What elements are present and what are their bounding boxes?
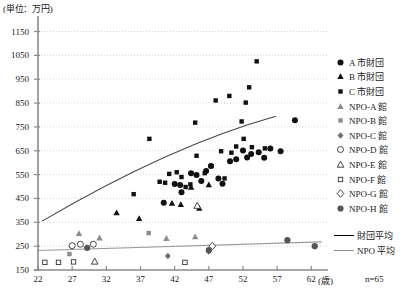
series-NPO-F 館	[43, 260, 187, 265]
legend-item-label: NPO-A 館	[349, 100, 387, 113]
series-NPO-D 館	[69, 241, 96, 248]
legend-item[interactable]: NPO-E 館	[334, 157, 409, 172]
legend-item-label: C 市財団	[349, 85, 384, 98]
legend-item[interactable]: A 市財団	[334, 55, 409, 70]
x-axis-tick: 62	[307, 274, 316, 284]
legend-item[interactable]: NPO-G 館	[334, 186, 409, 201]
filled-triangle-marker-icon	[334, 70, 347, 83]
line-swatch-icon	[334, 250, 354, 251]
x-axis-tick: 37	[136, 274, 145, 284]
gray-circle-marker-icon	[334, 202, 347, 215]
legend-item-label: B 市財団	[349, 70, 384, 83]
legend-item-label: NPO-G 館	[349, 187, 388, 200]
line-swatch-icon	[334, 235, 354, 236]
x-axis-tick: 47	[204, 274, 213, 284]
series-NPO-E 館	[91, 202, 200, 264]
filled-circle-marker-icon	[334, 56, 347, 69]
series-NPO-A 館	[76, 230, 199, 241]
sample-size-label: n=65	[365, 274, 384, 284]
legend-item[interactable]: NPO-D 館	[334, 143, 409, 158]
series-NPO-C 館	[165, 248, 212, 259]
x-axis-tick: 52	[239, 274, 248, 284]
open-diamond-marker-icon	[334, 187, 347, 200]
x-axis-tick: 22	[34, 274, 43, 284]
open-triangle-marker-icon	[334, 158, 347, 171]
x-axis-tick: 42	[170, 274, 179, 284]
legend-item[interactable]: NPO-B 館	[334, 113, 409, 128]
legend-item-label: NPO-B 館	[349, 114, 387, 127]
legend-item-label: NPO-D 館	[349, 143, 388, 156]
legend-item[interactable]: NPO-C 館	[334, 128, 409, 143]
gray-triangle-marker-icon	[334, 100, 347, 113]
legend-item[interactable]: NPO-F 館	[334, 172, 409, 187]
legend-item[interactable]: NPO-H 館	[334, 201, 409, 216]
legend-trendline-item[interactable]: 財団平均	[334, 228, 409, 243]
legend-item-label: NPO-F 館	[349, 173, 386, 186]
legend-item[interactable]: C 市財団	[334, 84, 409, 99]
gray-square-marker-icon	[334, 114, 347, 127]
legend: A 市財団B 市財団C 市財団NPO-A 館NPO-B 館NPO-C 館NPO-…	[334, 55, 409, 216]
legend-item-label: A 市財団	[349, 56, 384, 69]
legend-trendlines: 財団平均NPO 平均	[334, 228, 409, 258]
legend-item-label: NPO-C 館	[349, 129, 387, 142]
legend-trendline-label: 財団平均	[357, 229, 393, 242]
open-circle-marker-icon	[334, 143, 347, 156]
x-axis-tick: 32	[102, 274, 111, 284]
x-axis-unit-label: (歳)	[318, 274, 333, 287]
x-axis-tick: 27	[68, 274, 77, 284]
legend-trendline-label: NPO 平均	[357, 244, 395, 257]
legend-item-label: NPO-E 館	[349, 158, 387, 171]
open-square-marker-icon	[334, 173, 347, 186]
legend-item[interactable]: B 市財団	[334, 70, 409, 85]
chart-container: (単位：万円) 15025035045055065075085095010501…	[0, 0, 409, 300]
x-axis-tick: 57	[273, 274, 282, 284]
legend-trendline-item[interactable]: NPO 平均	[334, 243, 409, 258]
gray-diamond-marker-icon	[334, 129, 347, 142]
legend-item-label: NPO-H 館	[349, 202, 388, 215]
filled-square-marker-icon	[334, 85, 347, 98]
legend-item[interactable]: NPO-A 館	[334, 99, 409, 114]
